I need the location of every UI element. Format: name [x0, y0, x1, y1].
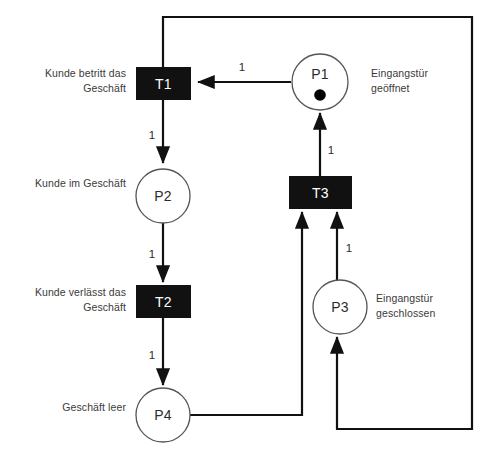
arc-t2-to-p4: 1 — [149, 318, 163, 385]
arc-p1-to-t1: 1 — [198, 61, 291, 82]
arc-weight-t2-p4: 1 — [149, 349, 155, 361]
place-p1[interactable]: P1 — [292, 54, 348, 110]
place-p3[interactable]: P3 — [313, 280, 367, 334]
annotation-p4: Geschäft leer — [16, 400, 126, 415]
arc-p2-to-t2: 1 — [149, 223, 163, 282]
transition-t2[interactable]: T2 — [136, 285, 191, 318]
transition-t3[interactable]: T3 — [289, 176, 352, 209]
place-p1-label: P1 — [311, 66, 329, 82]
place-p4-label: P4 — [154, 407, 172, 423]
arc-t3-to-p1: 1 — [320, 113, 334, 176]
arc-p4-to-t3 — [190, 212, 302, 415]
place-p2-label: P2 — [154, 188, 172, 204]
transition-t1[interactable]: T1 — [136, 67, 191, 100]
arc-weight-p3-t3: 1 — [346, 242, 352, 254]
annotation-p3: Eingangstür geschlossen — [376, 291, 486, 321]
place-p1-token — [314, 89, 326, 101]
arc-weight-t1-p2: 1 — [149, 129, 155, 141]
place-p2[interactable]: P2 — [136, 169, 190, 223]
place-p4[interactable]: P4 — [136, 388, 190, 442]
arc-weight-t3-p1: 1 — [328, 144, 334, 156]
petri-net-diagram: 1 1 1 1 1 1 — [0, 0, 497, 460]
annotation-p2: Kunde im Geschäft — [6, 176, 126, 191]
arc-weight-p2-t2: 1 — [149, 248, 155, 260]
place-p3-label: P3 — [331, 299, 349, 315]
transition-t3-label: T3 — [312, 185, 329, 201]
annotation-p1: Eingangstür geöffnet — [371, 66, 481, 96]
transition-t1-label: T1 — [155, 76, 172, 92]
arc-weight-p1-t1: 1 — [239, 61, 245, 73]
annotation-t2: Kunde verlässt das Geschäft — [6, 285, 126, 315]
transition-t2-label: T2 — [155, 294, 172, 310]
annotation-t1: Kunde betritt das Geschäft — [10, 66, 126, 96]
arc-t1-to-p2: 1 — [149, 100, 163, 163]
arc-p3-to-t3: 1 — [337, 212, 352, 280]
